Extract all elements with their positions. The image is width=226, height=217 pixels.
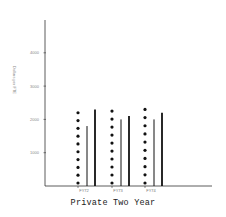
bar-dot [110,157,113,160]
bar-dot [143,165,146,168]
x-tick-label: FY74 [146,188,156,193]
bar-dot [76,119,79,122]
chart-bars [76,108,162,186]
bar-dot [143,108,146,111]
y-tick-label: 1000 [30,150,40,155]
y-tick-label: 3000 [30,84,40,89]
bar-dot [110,181,113,184]
y-tick-label: 2000 [30,117,40,122]
bar-dot [76,181,79,184]
bar-dot [110,141,113,144]
bar-dot [143,116,146,119]
bar-dot [143,149,146,152]
x-axis-ticks: FY72FY73FY74 [78,186,157,193]
chart-canvas: 1000200030004000 FY72FY73FY74 Dollars pe… [0,0,226,217]
bar-dot [76,142,79,145]
bar-dot [143,132,146,135]
bar-dot [110,117,113,120]
y-axis-title: Dollars per FTE [12,66,17,94]
bar-dot [110,125,113,128]
bar-dot [76,166,79,169]
bar-dot [110,173,113,176]
bar-dot [110,165,113,168]
bar-dot [143,173,146,176]
bar-dot [110,149,113,152]
bar-dot [110,109,113,112]
bar-dot [76,174,79,177]
bar-dot [143,124,146,127]
y-axis-ticks: 1000200030004000 [30,50,46,155]
y-tick-label: 4000 [30,50,40,55]
bar-dot [143,141,146,144]
bar-dot [76,111,79,114]
bar-dot [110,133,113,136]
bar-dot [143,157,146,160]
x-tick-label: FY72 [79,188,89,193]
x-tick-label: FY73 [113,188,123,193]
bar-dot [76,135,79,138]
bar-dot [76,150,79,153]
bar-dot [143,181,146,184]
chart-title: Private Two Year [0,198,226,208]
bar-dot [76,127,79,130]
bar-dot [76,158,79,161]
